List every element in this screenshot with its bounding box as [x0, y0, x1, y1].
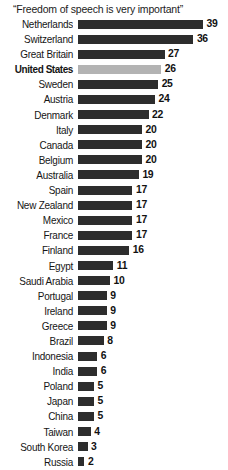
- bar-value-label: 17: [136, 199, 147, 211]
- bar-value-label: 22: [152, 109, 163, 121]
- chart-row: Mexico17: [0, 214, 228, 229]
- bar-value-label: 20: [146, 124, 157, 136]
- chart-row: France17: [0, 229, 228, 244]
- category-label: Denmark: [4, 109, 73, 122]
- category-label: Great Britain: [4, 48, 73, 61]
- bar: [78, 95, 155, 104]
- chart-row: Switzerland36: [0, 33, 228, 48]
- category-label: France: [4, 229, 73, 242]
- chart-row: Japan5: [0, 395, 228, 410]
- bar-track: 25: [78, 80, 226, 89]
- chart-row: United States26: [0, 63, 228, 78]
- bar: [78, 382, 94, 391]
- bar-track: 17: [78, 186, 226, 195]
- chart-row: Austria24: [0, 93, 228, 108]
- category-label: Russia: [4, 456, 73, 469]
- category-label: China: [4, 410, 73, 423]
- bar-value-label: 25: [162, 78, 173, 90]
- bar-value-label: 6: [101, 350, 106, 362]
- chart-row: Poland5: [0, 380, 228, 395]
- category-label: Japan: [4, 395, 73, 408]
- bar: [78, 397, 94, 406]
- chart-row: Russia2: [0, 456, 228, 470]
- category-label: United States: [4, 63, 73, 76]
- bar-track: 11: [78, 261, 226, 270]
- bar-value-label: 4: [94, 426, 99, 438]
- bar-value-label: 2: [88, 456, 93, 468]
- bar-track: 2: [78, 457, 226, 466]
- bar: [78, 80, 158, 89]
- bar-track: 39: [78, 20, 226, 29]
- bar-value-label: 16: [133, 244, 144, 256]
- bar-track: 9: [78, 321, 226, 330]
- bar-track: 17: [78, 216, 226, 225]
- bar: [78, 427, 91, 436]
- category-label: Australia: [4, 169, 73, 182]
- chart-rows: Netherlands39Switzerland36Great Britain2…: [0, 18, 228, 470]
- bar-value-label: 20: [146, 154, 157, 166]
- chart-row: Sweden25: [0, 78, 228, 93]
- bar: [78, 65, 161, 74]
- bar: [78, 216, 132, 225]
- category-label: Netherlands: [4, 18, 73, 31]
- bar: [78, 457, 84, 466]
- bar-value-label: 27: [168, 48, 179, 60]
- bar-track: 16: [78, 246, 226, 255]
- chart-row: India6: [0, 365, 228, 380]
- bar-track: 22: [78, 110, 226, 119]
- bar-track: 5: [78, 382, 226, 391]
- bar-track: 4: [78, 427, 226, 436]
- bar: [78, 336, 104, 345]
- bar-track: 36: [78, 35, 226, 44]
- category-label: Sweden: [4, 78, 73, 91]
- category-label: Indonesia: [4, 350, 73, 363]
- bar: [78, 367, 97, 376]
- bar-value-label: 11: [117, 260, 127, 272]
- bar-value-label: 5: [98, 395, 103, 407]
- bar: [78, 155, 142, 164]
- bar: [78, 261, 113, 270]
- bar-track: 9: [78, 306, 226, 315]
- bar: [78, 170, 139, 179]
- bar: [78, 186, 132, 195]
- category-label: Greece: [4, 320, 73, 333]
- category-label: Brazil: [4, 335, 73, 348]
- category-label: India: [4, 365, 73, 378]
- bar-value-label: 24: [158, 93, 169, 105]
- bar-value-label: 5: [98, 410, 103, 422]
- bar-track: 19: [78, 170, 226, 179]
- category-label: Portugal: [4, 290, 73, 303]
- bar: [78, 442, 88, 451]
- bar-track: 6: [78, 367, 226, 376]
- bar-value-label: 26: [165, 63, 176, 75]
- category-label: Taiwan: [4, 426, 73, 439]
- category-label: Ireland: [4, 305, 73, 318]
- bar: [78, 201, 132, 210]
- chart-row: Saudi Arabia10: [0, 275, 228, 290]
- bar-track: 26: [78, 65, 226, 74]
- category-label: New Zealand: [4, 199, 73, 212]
- bar-value-label: 39: [207, 18, 218, 30]
- bar-value-label: 36: [197, 33, 208, 45]
- bar-track: 6: [78, 352, 226, 361]
- chart-row: Italy20: [0, 124, 228, 139]
- bar: [78, 231, 132, 240]
- bar: [78, 352, 97, 361]
- bar-value-label: 17: [136, 229, 147, 241]
- bar: [78, 291, 107, 300]
- category-label: Finland: [4, 244, 73, 257]
- chart-row: Ireland9: [0, 305, 228, 320]
- bar-track: 5: [78, 397, 226, 406]
- category-label: Poland: [4, 380, 73, 393]
- category-label: South Korea: [4, 441, 73, 454]
- bar-value-label: 9: [110, 305, 115, 317]
- chart-row: New Zealand17: [0, 199, 228, 214]
- chart-row: Great Britain27: [0, 48, 228, 63]
- bar-value-label: 8: [107, 335, 112, 347]
- category-label: Austria: [4, 93, 73, 106]
- bar-track: 20: [78, 125, 226, 134]
- bar: [78, 50, 165, 59]
- bar: [78, 20, 203, 29]
- category-label: Switzerland: [4, 33, 73, 46]
